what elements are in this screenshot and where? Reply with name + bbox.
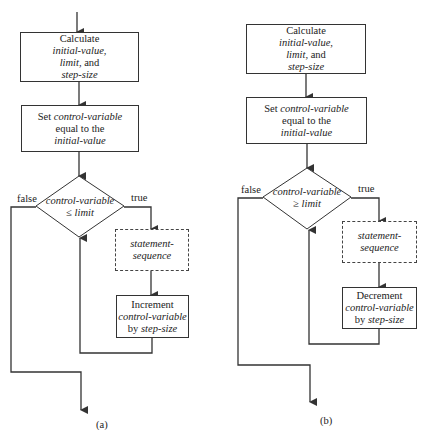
update-line-2: control-variable <box>345 302 413 314</box>
update-line-1: Increment <box>131 299 174 311</box>
calc-line-3b: and <box>82 57 100 68</box>
set-line-1a: Set <box>264 103 280 114</box>
set-box-a: Set control-variable equal to the initia… <box>21 105 139 152</box>
set-line-1a: Set <box>38 111 54 122</box>
update-line-1: Decrement <box>356 290 402 302</box>
increment-box-a: Increment control-variable by step-size <box>116 295 189 338</box>
calc-line-2: initial-value, <box>53 45 107 57</box>
calc-line-4: step-size <box>61 69 97 81</box>
body-line-2: sequence <box>133 250 171 262</box>
statement-sequence-box-b: statement- sequence <box>342 221 417 263</box>
true-label-a: true <box>131 192 147 204</box>
update-line-3a: by <box>355 314 368 325</box>
calc-line-3a: limit, <box>286 49 308 60</box>
set-box-b: Set control-variable equal to the initia… <box>246 97 367 144</box>
calculate-box-b: Calculate initial-value, limit, and step… <box>246 24 366 74</box>
set-line-1b: control-variable <box>280 103 348 114</box>
decision-line-2: ≥ limit <box>263 198 351 210</box>
decision-text-b: control-variable ≥ limit <box>263 186 351 210</box>
calc-line-3a: limit, <box>60 57 82 68</box>
set-line-2: equal to the <box>56 123 105 135</box>
calc-line-1: Calculate <box>60 33 100 45</box>
set-line-2: equal to the <box>282 115 331 127</box>
calc-line-4: step-size <box>288 61 324 73</box>
decision-text-a: control-variable ≤ limit <box>36 195 124 219</box>
update-line-3b: step-size <box>368 314 404 325</box>
false-label-b: false <box>241 184 261 196</box>
body-line-1: statement- <box>358 230 402 242</box>
update-line-3a: by <box>128 323 141 334</box>
decision-line-2: ≤ limit <box>36 207 124 219</box>
calculate-box-a: Calculate initial-value, limit, and step… <box>20 32 139 82</box>
update-line-2: control-variable <box>118 311 186 323</box>
decision-line-1: control-variable <box>263 186 351 198</box>
statement-sequence-box-a: statement- sequence <box>115 229 189 271</box>
calc-line-2: initial-value, <box>279 37 333 49</box>
set-line-1b: control-variable <box>54 111 122 122</box>
decrement-box-b: Decrement control-variable by step-size <box>342 287 417 329</box>
update-line-3b: step-size <box>141 323 177 334</box>
false-label-a: false <box>17 193 37 205</box>
body-line-2: sequence <box>360 242 398 254</box>
set-line-3: initial-value <box>281 127 332 139</box>
caption-a: (a) <box>96 419 108 430</box>
set-line-3: initial-value <box>54 135 105 147</box>
decision-line-1: control-variable <box>36 195 124 207</box>
calc-line-3b: and <box>308 49 326 60</box>
body-line-1: statement- <box>130 238 174 250</box>
caption-b: (b) <box>320 415 332 426</box>
true-label-b: true <box>358 183 374 195</box>
calc-line-1: Calculate <box>286 25 326 37</box>
